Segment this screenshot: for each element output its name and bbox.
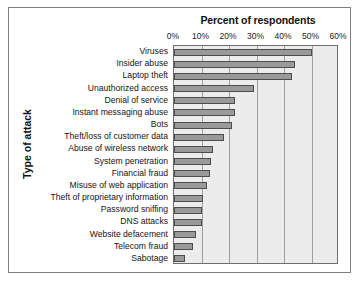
bar	[174, 243, 193, 250]
y-axis-label: Website defacement	[90, 228, 168, 240]
bar	[174, 49, 312, 56]
bar	[174, 231, 196, 238]
bar-row	[174, 46, 339, 58]
bar-row	[174, 131, 339, 143]
bar-row	[174, 83, 339, 95]
y-axis-label: Unauthorized access	[88, 82, 168, 94]
y-axis-label: Misuse of web application	[70, 179, 168, 191]
bar-row	[174, 253, 339, 265]
bar	[174, 85, 254, 92]
bar-row	[174, 95, 339, 107]
y-axis-label: Viruses	[139, 45, 168, 57]
bar-row	[174, 241, 339, 253]
y-axis-label: DNS attacks	[120, 215, 168, 227]
bar-series	[174, 46, 337, 263]
y-axis-label: Theft of proprietary information	[50, 191, 168, 203]
bar	[174, 73, 292, 80]
bar-row	[174, 180, 339, 192]
bar-row	[174, 70, 339, 82]
x-axis-tick-labels: 0%10%20%30%40%50%60%	[173, 31, 338, 43]
y-axis-label: Password sniffing	[101, 203, 168, 215]
bar-row	[174, 168, 339, 180]
y-axis-label: Sabotage	[131, 252, 168, 264]
y-axis-label: Laptop theft	[123, 69, 168, 81]
y-axis-label: Financial fraud	[112, 167, 168, 179]
bar	[174, 97, 235, 104]
bar	[174, 61, 295, 68]
bar-row	[174, 143, 339, 155]
bar-row	[174, 119, 339, 131]
bar	[174, 109, 235, 116]
x-axis-tick-40: 40%	[274, 31, 291, 41]
x-axis-tick-50: 50%	[302, 31, 319, 41]
chart-title: Percent of respondents	[173, 14, 343, 26]
bar-row	[174, 156, 339, 168]
bar	[174, 195, 203, 202]
y-axis-label: Abuse of wireless network	[68, 142, 168, 154]
bar	[174, 146, 213, 153]
bar-row	[174, 107, 339, 119]
bar	[174, 255, 185, 262]
plot-area	[173, 45, 338, 264]
x-axis-tick-60: 60%	[329, 31, 346, 41]
y-axis-label: Theft/loss of customer data	[64, 130, 168, 142]
chart-figure: Percent of respondents 0%10%20%30%40%50%…	[0, 0, 361, 288]
y-axis-label: System penetration	[94, 155, 168, 167]
y-axis-label: Insider abuse	[116, 57, 168, 69]
bar	[174, 207, 202, 214]
bar-row	[174, 192, 339, 204]
x-axis-tick-30: 30%	[247, 31, 264, 41]
x-axis-tick-20: 20%	[219, 31, 236, 41]
y-axis-label: Denial of service	[104, 94, 168, 106]
bar	[174, 134, 224, 141]
y-axis-label: Bots	[151, 118, 168, 130]
bar-row	[174, 216, 339, 228]
y-axis-label: Instant messaging abuse	[72, 106, 168, 118]
y-axis-label: Telecom fraud	[114, 240, 168, 252]
bar	[174, 122, 232, 129]
bar	[174, 219, 202, 226]
x-axis-tick-10: 10%	[192, 31, 209, 41]
bar-row	[174, 204, 339, 216]
bar	[174, 170, 210, 177]
bar-row	[174, 229, 339, 241]
bar	[174, 182, 207, 189]
bar-row	[174, 58, 339, 70]
bar	[174, 158, 211, 165]
y-axis-category-labels: VirusesInsider abuseLaptop theftUnauthor…	[20, 45, 171, 264]
x-axis-tick-0: 0%	[167, 31, 179, 41]
